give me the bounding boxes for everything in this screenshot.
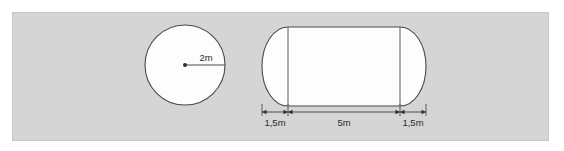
circle-center-dot <box>183 63 187 67</box>
dimension-left-cap-label: 1,5m <box>264 117 285 128</box>
side-view-capsule-outline <box>262 27 426 106</box>
circle-group: 2m <box>145 25 225 105</box>
radius-label: 2m <box>199 52 212 63</box>
capsule-group <box>262 27 426 106</box>
geometry-figure: 2m 1,5m5m1,5m <box>0 0 564 151</box>
dimension-right-cap-label: 1,5m <box>402 117 423 128</box>
figure-canvas: 2m 1,5m5m1,5m <box>0 0 564 151</box>
dimension-body-label: 5m <box>337 117 350 128</box>
